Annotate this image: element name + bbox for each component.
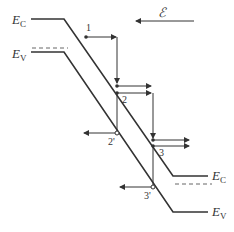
label-ev-right: EV [211,204,227,221]
label-ec-left: EC [11,12,26,29]
conduction-band [31,19,208,176]
label-field: ℰ [158,5,167,20]
label-ev-left: EV [11,46,27,63]
label-1: 1 [86,22,91,33]
valence-band [31,52,208,212]
label-3-prime: 3' [144,190,151,201]
label-3: 3 [159,147,164,158]
point-3-prime [151,185,155,189]
label-ec-right: EC [211,168,226,185]
point-2-prime [115,131,119,135]
band-diagram: EC EV EC EV ℰ 1 2 2' 3 3' [0,0,234,232]
label-2: 2 [122,94,127,105]
label-2-prime: 2' [108,136,115,147]
